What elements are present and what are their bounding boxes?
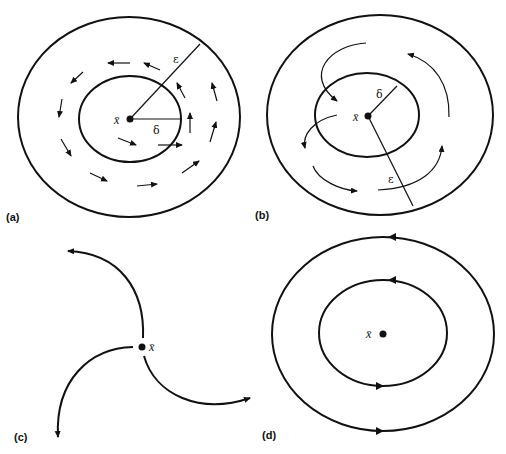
epsilon-label: ε — [388, 173, 394, 186]
epsilon-radius — [368, 116, 413, 206]
equilibrium-point — [139, 344, 146, 351]
epsilon-label: ε — [173, 53, 179, 66]
point-label: x̄ — [148, 340, 155, 354]
panel-label: (c) — [14, 431, 28, 443]
panel-d: x̄ (d) — [262, 233, 494, 441]
delta-label: δ — [376, 88, 383, 101]
panel-b: x̄ δ ε (b) — [255, 15, 493, 221]
point-label: x̄ — [113, 113, 120, 127]
panel-a: x̄ ε δ (a) — [6, 17, 240, 223]
equilibrium-point — [380, 331, 387, 338]
point-label: x̄ — [365, 327, 372, 341]
panel-label: (a) — [6, 211, 20, 223]
epsilon-radius — [130, 44, 200, 119]
panel-label: (b) — [255, 209, 269, 221]
stability-diagram: x̄ ε δ (a) x̄ δ ε — [0, 0, 506, 454]
flow-arrows — [59, 63, 217, 186]
flow-arrows — [305, 43, 450, 191]
point-label: x̄ — [352, 110, 359, 124]
epsilon-circle — [267, 15, 493, 215]
delta-label: δ — [153, 124, 160, 137]
panel-label: (d) — [262, 429, 276, 441]
panel-c: x̄ (c) — [14, 251, 250, 443]
